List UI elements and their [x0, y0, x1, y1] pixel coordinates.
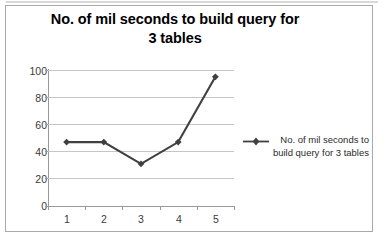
- series-polyline: [67, 77, 216, 164]
- data-point-1: [63, 139, 70, 146]
- y-tick-label-40: 40: [21, 147, 47, 157]
- x-tick-mark-3: [160, 206, 161, 210]
- y-tick-label-80: 80: [21, 93, 47, 103]
- x-tick-label-2: 2: [89, 214, 119, 224]
- x-tick-label-4: 4: [164, 214, 194, 224]
- x-tick-mark-5: [234, 206, 235, 210]
- legend-label-line-1: No. of mil seconds to: [280, 134, 369, 145]
- x-tick-label-5: 5: [201, 214, 231, 224]
- chart-title-line-2: 3 tables: [148, 30, 201, 46]
- series-line-no-of-mil-seconds: [48, 70, 234, 206]
- series-markers: [63, 73, 219, 167]
- x-axis-line: [48, 206, 235, 207]
- chart-legend: No. of mil seconds to build query for 3 …: [243, 134, 369, 159]
- x-tick-mark-2: [122, 206, 123, 210]
- legend-label-line-2: build query for 3 tables: [273, 147, 369, 158]
- y-tick-label-0: 0: [21, 201, 47, 211]
- y-tick-label-100: 100: [21, 66, 47, 76]
- x-tick-label-3: 3: [126, 214, 156, 224]
- x-tick-mark-0: [48, 206, 49, 210]
- x-tick-mark-1: [85, 206, 86, 210]
- chart-title-line-1: No. of mil seconds to build query for: [51, 11, 299, 27]
- legend-line-marker-icon: [243, 137, 269, 146]
- plot-area: [48, 70, 234, 206]
- x-tick-mark-4: [197, 206, 198, 210]
- y-tick-label-60: 60: [21, 120, 47, 130]
- scan-artifact-strip: [6, 1, 378, 3]
- chart-figure: No. of mil seconds to build query for 3 …: [0, 0, 384, 241]
- chart-title: No. of mil seconds to build query for 3 …: [30, 10, 320, 48]
- legend-entry-no-of-mil-seconds: No. of mil seconds to build query for 3 …: [243, 134, 369, 159]
- legend-label: No. of mil seconds to build query for 3 …: [271, 134, 369, 159]
- y-tick-label-20: 20: [21, 174, 47, 184]
- x-tick-label-1: 1: [52, 214, 82, 224]
